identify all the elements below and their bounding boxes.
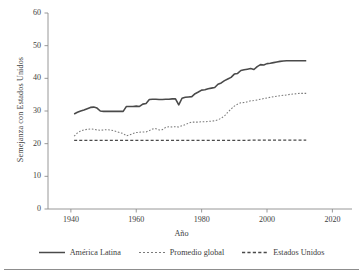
legend-label-america-latina: América Latina (70, 248, 121, 257)
y-tick-label: 60 (17, 8, 41, 17)
x-tick-label: 2000 (247, 215, 287, 224)
y-tick-label: 10 (17, 171, 41, 180)
legend-label-estados-unidos: Estados Unidos (273, 248, 324, 257)
chart-figure: Semejanza con Estados Unidos Año 6050403… (0, 0, 363, 278)
bottom-divider (4, 269, 359, 270)
chart-axes (45, 13, 353, 213)
legend-item-america-latina: América Latina (39, 248, 121, 257)
legend-label-promedio-global: Promedio global (170, 248, 224, 257)
x-tick-label: 1960 (116, 215, 156, 224)
y-tick-label: 0 (17, 204, 41, 213)
y-tick-label: 20 (17, 139, 41, 148)
legend-swatch-dashed-icon (242, 249, 268, 256)
chart-series-group (74, 61, 306, 141)
series-line-0 (74, 61, 306, 114)
series-line-1 (74, 93, 306, 136)
chart-legend: América Latina Promedio global Estados U… (0, 248, 363, 257)
legend-item-estados-unidos: Estados Unidos (242, 248, 324, 257)
x-tick-label: 1980 (182, 215, 222, 224)
legend-swatch-solid-icon (39, 249, 65, 256)
y-tick-label: 40 (17, 73, 41, 82)
y-tick-label: 30 (17, 106, 41, 115)
y-tick-label: 50 (17, 41, 41, 50)
legend-swatch-dotted-icon (139, 249, 165, 256)
x-tick-label: 2020 (312, 215, 352, 224)
x-axis-title: Año (0, 229, 363, 238)
legend-item-promedio-global: Promedio global (139, 248, 224, 257)
x-tick-label: 1940 (51, 215, 91, 224)
